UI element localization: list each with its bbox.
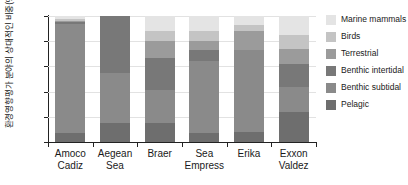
bar-segment-marine-mammals[interactable] bbox=[145, 16, 175, 31]
bar-segment-birds[interactable] bbox=[55, 19, 85, 22]
x-tick-mark bbox=[271, 143, 272, 147]
bar-segment-pelagic[interactable] bbox=[189, 133, 219, 142]
bar-segment-birds[interactable] bbox=[279, 35, 309, 49]
bar-segment-pelagic[interactable] bbox=[145, 123, 175, 142]
bar-segment-pelagic[interactable] bbox=[100, 123, 130, 142]
legend-item-terrestrial[interactable]: Terrestrial bbox=[326, 45, 406, 62]
bar-braer[interactable] bbox=[145, 16, 175, 142]
x-tick-mark bbox=[316, 143, 317, 147]
bar-sea-empress[interactable] bbox=[189, 16, 219, 142]
gridline bbox=[48, 41, 316, 42]
legend-swatch-icon bbox=[326, 100, 336, 110]
plot-area bbox=[48, 16, 316, 142]
legend-item-pelagic[interactable]: Pelagic bbox=[326, 96, 406, 113]
x-label-exxon-valdez: ExxonValdez bbox=[261, 148, 327, 171]
legend-swatch-icon bbox=[326, 83, 336, 93]
bar-segment-terrestrial[interactable] bbox=[55, 21, 85, 22]
bar-segment-terrestrial[interactable] bbox=[234, 31, 264, 50]
bar-exxon-valdez[interactable] bbox=[279, 16, 309, 142]
bar-segment-benthic-subtidal[interactable] bbox=[55, 24, 85, 134]
x-tick-mark bbox=[182, 143, 183, 147]
legend: Marine mammalsBirdsTerrestrialBenthic in… bbox=[326, 11, 406, 113]
bar-amoco-cadiz[interactable] bbox=[55, 16, 85, 142]
bar-segment-benthic-subtidal[interactable] bbox=[145, 90, 175, 123]
legend-item-benthic-subtidal[interactable]: Benthic subtidal bbox=[326, 79, 406, 96]
x-tick-mark bbox=[227, 143, 228, 147]
bar-segment-pelagic[interactable] bbox=[234, 132, 264, 142]
legend-label: Terrestrial bbox=[341, 49, 378, 58]
bar-aegean-sea[interactable] bbox=[100, 16, 130, 142]
gridline bbox=[48, 117, 316, 118]
bar-segment-benthic-subtidal[interactable] bbox=[100, 73, 130, 123]
bar-segment-marine-mammals[interactable] bbox=[234, 16, 264, 25]
gridline bbox=[48, 16, 316, 17]
bar-segment-benthic-subtidal[interactable] bbox=[189, 61, 219, 133]
bar-segment-benthic-intertidal[interactable] bbox=[100, 16, 130, 73]
bar-segment-pelagic[interactable] bbox=[279, 112, 309, 142]
bar-segment-benthic-subtidal[interactable] bbox=[234, 50, 264, 132]
legend-swatch-icon bbox=[326, 32, 336, 42]
stacked-bar-chart: 환경영향평가 분야의 상대적인 비중(%) 020406080100 Amoco… bbox=[0, 0, 408, 185]
x-label-line: Exxon bbox=[261, 148, 327, 160]
y-axis-title: 환경영향평가 분야의 상대적인 비중(%) bbox=[5, 0, 14, 135]
legend-item-benthic-intertidal[interactable]: Benthic intertidal bbox=[326, 62, 406, 79]
legend-swatch-icon bbox=[326, 49, 336, 59]
bar-segment-terrestrial[interactable] bbox=[279, 49, 309, 64]
x-tick-mark bbox=[137, 143, 138, 147]
x-label-line: Empress bbox=[171, 160, 237, 172]
bar-segment-benthic-intertidal[interactable] bbox=[279, 64, 309, 87]
bar-segment-birds[interactable] bbox=[145, 31, 175, 41]
gridline bbox=[48, 92, 316, 93]
bar-segment-benthic-intertidal[interactable] bbox=[145, 58, 175, 91]
bar-segment-benthic-intertidal[interactable] bbox=[55, 22, 85, 23]
legend-item-marine-mammals[interactable]: Marine mammals bbox=[326, 11, 406, 28]
x-label-line: Sea bbox=[82, 160, 148, 172]
bar-segment-terrestrial[interactable] bbox=[145, 41, 175, 57]
bar-erika[interactable] bbox=[234, 16, 264, 142]
legend-label: Marine mammals bbox=[341, 15, 406, 24]
legend-swatch-icon bbox=[326, 66, 336, 76]
bar-segment-benthic-intertidal[interactable] bbox=[189, 50, 219, 61]
gridline bbox=[48, 66, 316, 67]
bar-segment-terrestrial[interactable] bbox=[189, 41, 219, 50]
legend-label: Pelagic bbox=[341, 100, 369, 109]
legend-label: Benthic intertidal bbox=[341, 66, 404, 75]
x-tick-mark bbox=[48, 143, 49, 147]
bar-segment-marine-mammals[interactable] bbox=[279, 16, 309, 35]
legend-label: Birds bbox=[341, 32, 360, 41]
legend-item-birds[interactable]: Birds bbox=[326, 28, 406, 45]
bar-segment-pelagic[interactable] bbox=[55, 133, 85, 142]
bar-segment-birds[interactable] bbox=[189, 31, 219, 41]
bar-segment-benthic-subtidal[interactable] bbox=[279, 87, 309, 112]
x-tick-mark bbox=[93, 143, 94, 147]
legend-label: Benthic subtidal bbox=[341, 83, 401, 92]
bar-segment-birds[interactable] bbox=[234, 25, 264, 31]
bar-segment-marine-mammals[interactable] bbox=[189, 16, 219, 31]
x-label-line: Valdez bbox=[261, 160, 327, 172]
legend-swatch-icon bbox=[326, 15, 336, 25]
bar-segment-marine-mammals[interactable] bbox=[55, 16, 85, 19]
